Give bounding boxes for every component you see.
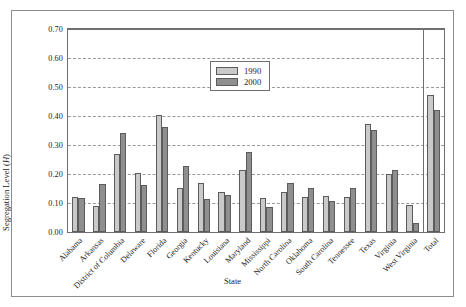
bar-group [135,29,148,232]
bar-group [72,29,85,232]
legend-label-2000: 2000 [244,77,261,87]
bar-2000 [78,198,84,232]
legend-label-1990: 1990 [244,66,261,76]
y-axis-tick-label: 0.70 [48,25,63,34]
bar-2000 [371,130,377,232]
bar-2000 [204,199,210,232]
bar-2000 [287,183,293,232]
bar-group [386,29,399,232]
y-axis-title-text: Segregation Level ( [1,163,11,231]
bar-2000 [350,188,356,232]
plot-area: 0.700.600.500.400.300.200.100.00 Alabama… [67,28,445,233]
bar-2000 [434,110,440,232]
bar-2000 [308,188,314,232]
y-axis-title: Segregation Level (H) [1,154,11,231]
bar-series-container [68,29,444,232]
bar-group [93,29,106,232]
bar-2000 [183,166,189,232]
legend-item-2000: 2000 [216,76,261,87]
y-axis-tick-label: 0.00 [48,228,63,237]
y-axis-title-symbol: H [1,156,11,162]
y-axis-tick-label: 0.60 [48,54,63,63]
x-axis-title: State [12,276,453,286]
bar-group [114,29,127,232]
y-axis-tick-label: 0.20 [48,170,63,179]
bar-group [177,29,190,232]
legend-swatch-1990 [216,67,238,75]
bar-group [218,29,231,232]
bar-group [344,29,357,232]
y-axis-title-close: ) [1,154,11,157]
bar-2000 [329,201,335,232]
x-axis-tick-label: Total [422,236,440,254]
chart-legend: 1990 2000 [210,61,270,91]
y-axis-tick-label: 0.10 [48,199,63,208]
bar-group [156,29,169,232]
bar-2000 [266,207,272,232]
y-axis-tick-label: 0.30 [48,141,63,150]
figure-frame: Segregation Level (H) 0.700.600.500.400.… [11,10,454,297]
bar-group [427,29,440,232]
bar-group [365,29,378,232]
bar-group [239,29,252,232]
bar-2000 [120,133,126,232]
bar-2000 [413,223,419,232]
bar-group [323,29,336,232]
bar-2000 [246,152,252,232]
bar-group [281,29,294,232]
y-axis-tick-label: 0.50 [48,83,63,92]
bar-group [302,29,315,232]
bar-group [198,29,211,232]
bar-2000 [392,170,398,232]
bar-2000 [141,185,147,232]
legend-swatch-2000 [216,78,238,86]
bar-2000 [99,184,105,232]
bar-2000 [225,195,231,232]
legend-item-1990: 1990 [216,65,261,76]
bar-2000 [162,127,168,232]
bar-group [406,29,419,232]
bar-group [260,29,273,232]
y-axis-tick-label: 0.40 [48,112,63,121]
total-separator-line [423,29,424,232]
